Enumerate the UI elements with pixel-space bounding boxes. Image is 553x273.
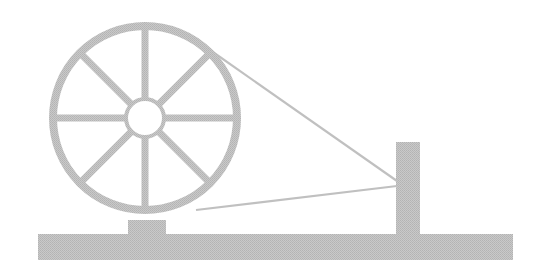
wheel-pedestal <box>128 220 166 236</box>
wheel-hub <box>126 99 164 137</box>
charkha-drawing <box>0 0 553 273</box>
base-plank <box>38 234 513 260</box>
spinning-wheel-illustration: spinning wheel (charkha) <box>0 0 553 273</box>
drive-string-lower <box>196 186 397 210</box>
spindle-post <box>396 142 420 235</box>
